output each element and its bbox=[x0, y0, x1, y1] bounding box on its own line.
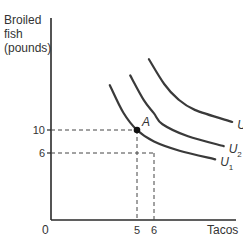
y-tick-label-6: 6 bbox=[39, 147, 45, 159]
y-axis-label: Broiled fish (pounds) bbox=[4, 13, 51, 55]
x-tick-label-5: 5 bbox=[134, 224, 140, 236]
y-axis-label-line-2: fish bbox=[4, 27, 23, 41]
curve-u3 bbox=[149, 59, 232, 122]
point-a bbox=[134, 127, 141, 134]
y-axis-label-line-3: (pounds) bbox=[4, 41, 51, 55]
y-axis-label-line-1: Broiled bbox=[4, 13, 41, 27]
y-tick-label-10: 10 bbox=[33, 124, 45, 136]
curve-label-u1: U1 bbox=[220, 155, 234, 172]
x-tick-label-6: 6 bbox=[151, 224, 157, 236]
point-label-a: A bbox=[141, 115, 150, 129]
indifference-curve-chart: Broiled fish (pounds) U1U2U3 A 10656 0 T… bbox=[0, 0, 243, 243]
curve-label-u2: U2 bbox=[229, 142, 243, 159]
curve-u1 bbox=[110, 85, 215, 159]
curve-label-u3: U3 bbox=[237, 118, 243, 135]
origin-label: 0 bbox=[42, 223, 49, 237]
x-axis-label: Tacos bbox=[207, 223, 238, 237]
